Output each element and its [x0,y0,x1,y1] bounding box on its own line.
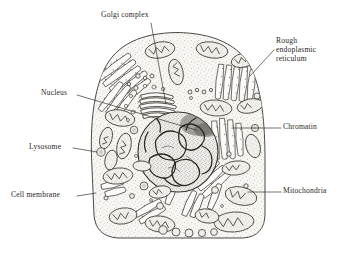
label-golgi-complex: Golgi complex [101,10,149,19]
label-rer-line1: Rough [276,36,297,45]
label-mitochondria: Mitochondria [283,186,327,195]
label-lysosome: Lysosome [29,142,61,151]
label-rer-line3: reticulum [276,54,307,63]
label-cell-membrane: Cell membrane [11,190,60,199]
cell-diagram-page: Golgi complex Roughendoplasmicreticulum … [0,0,346,256]
leader-rer [250,50,274,76]
label-rough-endoplasmic-reticulum: Roughendoplasmicreticulum [276,36,316,64]
label-rer-line2: endoplasmic [276,45,316,54]
label-chromatin: Chromatin [283,122,317,131]
label-nucleus: Nucleus [41,88,67,97]
